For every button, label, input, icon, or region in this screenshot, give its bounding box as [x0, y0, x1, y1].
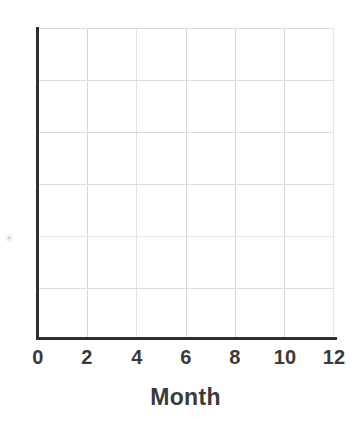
x-tick-label-8: 8 [229, 345, 240, 369]
x-tick-label-4: 4 [131, 345, 142, 369]
scan-artifact-dot [6, 235, 12, 241]
x-tick-label-6: 6 [180, 345, 191, 369]
x-axis-line [36, 337, 337, 340]
gridline-horizontal [38, 80, 334, 81]
gridline-horizontal [38, 288, 334, 289]
chart-figure: 0 2 4 6 8 10 12 Month [0, 0, 363, 446]
x-tick-label-10: 10 [274, 345, 297, 369]
x-tick-label-2: 2 [81, 345, 92, 369]
gridline-horizontal [38, 236, 334, 237]
plot-area [38, 28, 334, 339]
x-axis-title: Month [0, 384, 363, 411]
x-tick-label-0: 0 [32, 345, 43, 369]
gridline-horizontal [38, 132, 334, 133]
x-tick-label-group: 0 2 4 6 8 10 12 [0, 345, 363, 371]
x-tick-label-12: 12 [323, 345, 346, 369]
gridline-horizontal [38, 28, 334, 29]
gridline-horizontal [38, 184, 334, 185]
y-axis-line [36, 27, 39, 340]
